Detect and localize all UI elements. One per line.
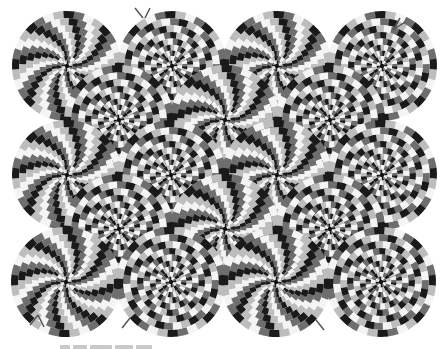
disc-center-dot bbox=[223, 227, 227, 231]
disc-center-dot bbox=[275, 173, 279, 177]
disc-center-dot bbox=[65, 173, 69, 177]
disc-center-dot bbox=[274, 280, 278, 284]
disc-center-dot bbox=[117, 118, 121, 122]
snake-tongue bbox=[135, 8, 143, 18]
disc-center-dot bbox=[223, 118, 227, 122]
faint-caption bbox=[60, 336, 170, 344]
disc-center-dot bbox=[169, 173, 173, 177]
disc-center-dot bbox=[275, 64, 279, 68]
disc-center-dot bbox=[64, 280, 68, 284]
rotating-snakes-illusion bbox=[0, 0, 445, 349]
disc-center-dot bbox=[380, 64, 384, 68]
snake-tongue bbox=[316, 320, 324, 330]
snake-disc bbox=[11, 227, 121, 337]
snake-disc bbox=[221, 227, 331, 337]
disc-center-dot bbox=[328, 118, 332, 122]
disc-center-dot bbox=[65, 64, 69, 68]
snake-disc bbox=[116, 227, 226, 337]
snake-disc bbox=[326, 227, 436, 337]
disc-center-dot bbox=[117, 227, 121, 231]
disc-center-dot bbox=[379, 280, 383, 284]
disc-center-dot bbox=[328, 227, 332, 231]
disc-center-dot bbox=[170, 64, 174, 68]
disc-center-dot bbox=[169, 280, 173, 284]
disc-center-dot bbox=[380, 173, 384, 177]
snake-tongue bbox=[122, 318, 130, 328]
